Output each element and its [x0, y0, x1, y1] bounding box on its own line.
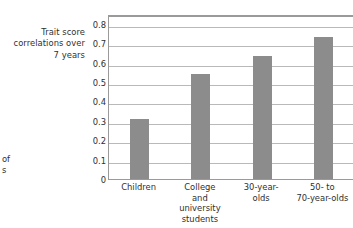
x-axis-category-3-line: olds: [231, 193, 292, 204]
x-axis-category-1-line: Children: [108, 182, 169, 193]
y-axis-tick-0-5: 0.5: [86, 79, 106, 87]
x-axis-category-4-line: 70-year-olds: [292, 193, 353, 204]
x-axis-category-2: Collegeanduniversitystudents: [169, 182, 230, 224]
x-axis-category-2-line: and: [169, 193, 230, 204]
y-axis-tick-0-4: 0.4: [86, 98, 106, 106]
x-axis-category-2-line: students: [169, 214, 230, 225]
bar-chart: 00.10.20.30.40.50.60.70.8 ChildrenColleg…: [86, 15, 353, 228]
y-axis-caption-line-2: correlations over: [0, 38, 85, 49]
x-axis-category-1: Children: [108, 182, 169, 193]
y-axis-tick-0-8: 0.8: [86, 21, 106, 29]
y-axis-tick-0-2: 0.2: [86, 137, 106, 145]
bar-3: [253, 56, 272, 179]
y-axis-tick-0-1: 0.1: [86, 156, 106, 164]
y-axis-tick-labels: 00.10.20.30.40.50.60.70.8: [86, 15, 106, 180]
y-axis-tick-0-3: 0.3: [86, 118, 106, 126]
x-axis-category-4: 50- to70-year-olds: [292, 182, 353, 203]
x-axis-category-3: 30-year-olds: [231, 182, 292, 203]
bar-4: [314, 37, 333, 179]
x-axis-category-2-line: university: [169, 203, 230, 214]
y-axis-caption-line-3: 7 years: [0, 50, 85, 61]
page-text-fragment: of s: [2, 154, 36, 177]
plot-area: [108, 15, 353, 180]
bar-1: [130, 119, 149, 179]
y-axis-tick-0-6: 0.6: [86, 59, 106, 67]
x-axis-category-labels: ChildrenCollegeanduniversitystudents30-y…: [108, 182, 353, 228]
x-axis-category-3-line: 30-year-: [231, 182, 292, 193]
y-axis-caption: Trait score correlations over 7 years: [0, 27, 85, 61]
y-axis-caption-line-1: Trait score: [0, 27, 85, 38]
page-text-fragment-line-1: of: [2, 154, 36, 165]
bar-series: [109, 17, 353, 179]
x-axis-category-2-line: College: [169, 182, 230, 193]
x-axis-category-4-line: 50- to: [292, 182, 353, 193]
bar-2: [191, 74, 210, 179]
y-axis-tick-0-7: 0.7: [86, 40, 106, 48]
y-axis-tick-0: 0: [86, 176, 106, 184]
page-text-fragment-line-2: s: [2, 165, 36, 176]
